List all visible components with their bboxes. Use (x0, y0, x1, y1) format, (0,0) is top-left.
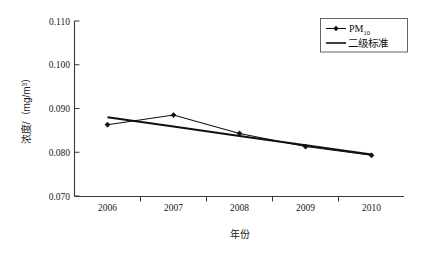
pm10-trend-chart: 0.110 0.100 0.090 0.080 0.070 2006 2007 … (0, 0, 425, 257)
y-axis-title: 浓度/（mg/m3） (20, 73, 32, 144)
y-tick-label: 0.100 (49, 60, 71, 70)
x-tick-label: 2006 (98, 203, 117, 213)
x-tick-label: 2007 (164, 203, 183, 213)
chart-legend: PM10 二级标准 (321, 19, 408, 53)
chart-page: 0.110 0.100 0.090 0.080 0.070 2006 2007 … (0, 0, 425, 257)
x-tick-label: 2009 (296, 203, 315, 213)
svg-text:浓度/（mg/m3）: 浓度/（mg/m3） (20, 73, 32, 144)
y-tick-label: 0.070 (49, 192, 71, 202)
y-tick-label: 0.080 (49, 148, 71, 158)
y-axis-title-tail: ） (21, 73, 32, 83)
x-axis-title: 年份 (230, 228, 250, 240)
x-tick-label: 2010 (362, 203, 381, 213)
y-axis-title-main: 浓度/（mg/m (20, 86, 32, 144)
legend-label-pm10-sub: 10 (363, 29, 370, 36)
legend-label-grade2-standard: 二级标准 (348, 37, 388, 49)
x-tick-label: 2008 (230, 203, 249, 213)
y-tick-label: 0.110 (49, 17, 70, 27)
y-tick-label: 0.090 (49, 104, 71, 114)
legend-label-pm10-base: PM (349, 23, 364, 34)
